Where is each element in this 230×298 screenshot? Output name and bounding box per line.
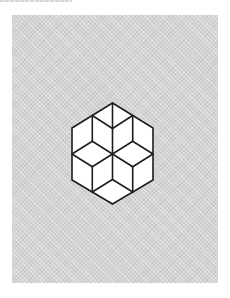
hexagon-cube-figure: [0, 0, 230, 298]
